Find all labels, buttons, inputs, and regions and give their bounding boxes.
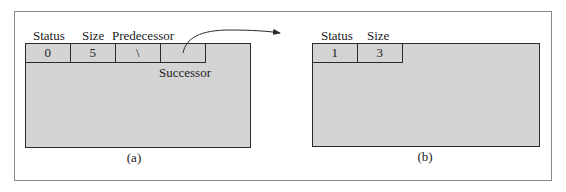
status-cell-b: 1 <box>312 43 359 63</box>
size-label-b: Size <box>367 29 389 43</box>
memory-block-b: 1 3 <box>312 43 540 147</box>
size-cell-b: 3 <box>357 43 404 63</box>
caption-b: (b) <box>405 150 445 164</box>
status-label-b: Status <box>321 29 353 43</box>
